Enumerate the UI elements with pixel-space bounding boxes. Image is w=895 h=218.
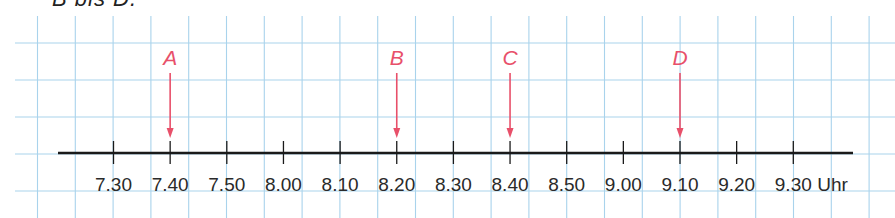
tick-label: 8.10 <box>322 174 359 195</box>
marker-label: B <box>390 46 404 69</box>
tick-label: 8.40 <box>492 174 529 195</box>
marker-d: D <box>672 46 687 138</box>
marker-label: A <box>161 46 177 69</box>
arrowhead-icon <box>393 128 400 138</box>
tick-label: 8.00 <box>265 174 302 195</box>
tick-label: 9.20 <box>718 174 755 195</box>
tick-label: 7.30 <box>95 174 132 195</box>
marker-label: D <box>672 46 687 69</box>
arrowhead-icon <box>677 128 684 138</box>
arrowhead-icon <box>167 128 174 138</box>
marker-a: A <box>161 46 177 138</box>
tick-label: 7.40 <box>152 174 189 195</box>
tick-label: 9.10 <box>662 174 699 195</box>
tick-label: 7.50 <box>208 174 245 195</box>
tick-label: 9.00 <box>605 174 642 195</box>
tick-label: 8.50 <box>548 174 585 195</box>
arrowhead-icon <box>507 128 514 138</box>
marker-label: C <box>502 46 518 69</box>
marker-c: C <box>502 46 518 138</box>
tick-label: 9.30 <box>775 174 812 195</box>
tick-label: 8.30 <box>435 174 472 195</box>
marker-b: B <box>390 46 404 138</box>
time-number-line: 7.307.407.508.008.108.208.308.408.509.00… <box>0 0 895 218</box>
tick-label: 8.20 <box>378 174 415 195</box>
unit-label: Uhr <box>817 174 848 195</box>
